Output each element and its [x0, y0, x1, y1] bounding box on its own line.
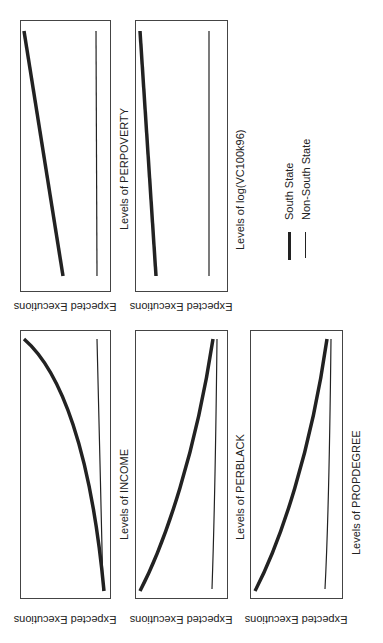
plot-area-income	[20, 330, 111, 599]
lines-perpoverty	[21, 21, 110, 291]
y-axis-label-income: Expected Executions	[5, 614, 125, 626]
x-axis-label-income: Levels of INCOME	[118, 449, 130, 540]
plot-area-perblack	[135, 330, 228, 599]
y-axis-label-propdegree: Expected Executions	[236, 614, 356, 626]
legend-swatch-south	[288, 232, 291, 260]
y-axis-label-perblack: Expected Executions	[121, 614, 241, 626]
x-axis-label-propdegree: Levels of PROPDEGREE	[350, 430, 362, 555]
lines-perblack	[136, 331, 227, 598]
plot-area-vc	[135, 20, 228, 292]
x-axis-label-perblack: Levels of PERBLACK	[234, 434, 246, 540]
plot-area-perpoverty	[20, 20, 111, 292]
lines-income	[21, 331, 110, 598]
legend-swatch-nonsouth	[305, 232, 306, 258]
legend: South State Non-South State	[280, 120, 320, 270]
y-axis-label-perpoverty: Expected Executions	[5, 301, 125, 313]
legend-label-nonsouth: Non-South State	[300, 139, 312, 220]
plot-area-propdegree	[250, 330, 343, 599]
lines-propdegree	[251, 331, 342, 598]
x-axis-label-vc: Levels of log(VC100k96)	[234, 130, 246, 250]
y-axis-label-vc: Expected Executions	[121, 301, 241, 313]
x-axis-label-perpoverty: Levels of PERPOVERTY	[118, 108, 130, 230]
lines-vc	[136, 21, 227, 291]
legend-label-south: South State	[283, 163, 295, 221]
